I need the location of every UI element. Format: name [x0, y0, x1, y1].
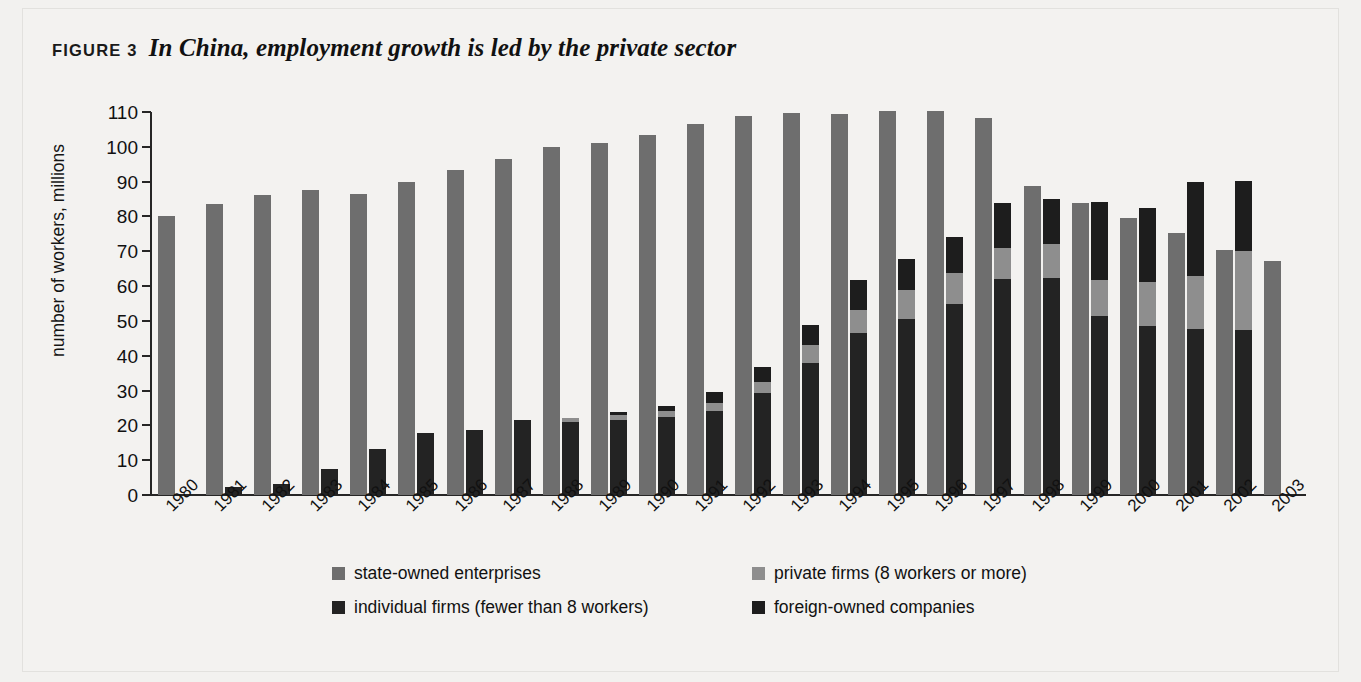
y-tick-label: 20: [92, 416, 138, 435]
bar-segment-state-owned: [1216, 250, 1233, 495]
bar-segment-state-owned: [831, 114, 848, 495]
bar-segment-individual-firms: [1139, 326, 1156, 495]
bar-segment-private-firms: [1043, 244, 1060, 277]
bar-segment-foreign-owned: [706, 392, 723, 403]
bar-segment-state-owned: [398, 182, 415, 495]
bar-segment-individual-firms: [802, 363, 819, 495]
bar-group: [1066, 112, 1114, 495]
bar-segment-private-firms: [802, 345, 819, 363]
legend-swatch-icon: [332, 567, 345, 580]
bar-group: [921, 112, 969, 495]
bars-layer: [152, 112, 1306, 495]
bar-segment-individual-firms: [1091, 316, 1108, 495]
bar-private-sector-stack: [994, 203, 1011, 495]
bar-state-owned: [447, 170, 464, 495]
bar-segment-private-firms: [994, 248, 1011, 280]
bar-state-owned: [687, 124, 704, 496]
bar-private-sector-stack: [1139, 208, 1156, 495]
bar-group: [681, 112, 729, 495]
y-tick-mark: [142, 111, 151, 113]
bar-segment-individual-firms: [1187, 329, 1204, 495]
bar-segment-state-owned: [735, 116, 752, 495]
bar-segment-foreign-owned: [1043, 199, 1060, 244]
bar-segment-state-owned: [158, 216, 175, 495]
bar-segment-state-owned: [687, 124, 704, 496]
legend-item[interactable]: foreign-owned companies: [752, 597, 1092, 618]
bar-segment-private-firms: [1091, 280, 1108, 317]
bar-segment-state-owned: [783, 113, 800, 495]
legend-swatch-icon: [332, 601, 345, 614]
bar-state-owned: [783, 113, 800, 495]
bar-state-owned: [1120, 218, 1137, 495]
y-tick-label: 50: [92, 311, 138, 330]
legend-item[interactable]: private firms (8 workers or more): [752, 563, 1092, 584]
legend-swatch-icon: [752, 601, 765, 614]
bar-segment-state-owned: [447, 170, 464, 495]
legend-label: individual firms (fewer than 8 workers): [354, 597, 649, 618]
bar-state-owned: [975, 118, 992, 495]
legend-swatch-icon: [752, 567, 765, 580]
bar-group: [344, 112, 392, 495]
bar-segment-state-owned: [254, 195, 271, 495]
y-tick-mark: [142, 459, 151, 461]
bar-segment-foreign-owned: [946, 237, 963, 274]
y-tick-mark: [142, 390, 151, 392]
bar-segment-foreign-owned: [898, 259, 915, 290]
y-tick-mark: [142, 494, 151, 496]
bar-segment-state-owned: [206, 204, 223, 495]
bar-group: [633, 112, 681, 495]
bar-private-sector-stack: [1043, 199, 1060, 495]
bar-private-sector-stack: [1091, 202, 1108, 495]
bar-segment-state-owned: [1024, 186, 1041, 495]
y-tick-mark: [142, 320, 151, 322]
bar-segment-state-owned: [350, 194, 367, 495]
bar-segment-state-owned: [302, 190, 319, 495]
bar-segment-foreign-owned: [1139, 208, 1156, 282]
y-tick-label: 0: [92, 486, 138, 505]
legend-item[interactable]: individual firms (fewer than 8 workers): [332, 597, 752, 618]
y-tick-label: 40: [92, 346, 138, 365]
y-tick-label: 110: [92, 103, 138, 122]
bar-segment-state-owned: [975, 118, 992, 495]
bar-segment-private-firms: [706, 403, 723, 411]
y-tick-mark: [142, 146, 151, 148]
bar-private-sector-stack: [1187, 182, 1204, 495]
bar-private-sector-stack: [850, 280, 867, 495]
y-tick-mark: [142, 250, 151, 252]
y-tick-label: 70: [92, 242, 138, 261]
bar-group: [969, 112, 1017, 495]
bar-private-sector-stack: [754, 367, 771, 495]
y-tick-mark: [142, 355, 151, 357]
legend-label: state-owned enterprises: [354, 563, 541, 584]
bar-state-owned: [398, 182, 415, 495]
bar-segment-state-owned: [927, 111, 944, 495]
bar-group: [537, 112, 585, 495]
bar-group: [441, 112, 489, 495]
bar-group: [729, 112, 777, 495]
bar-state-owned: [495, 159, 512, 495]
bar-group: [489, 112, 537, 495]
bar-segment-private-firms: [754, 382, 771, 392]
y-tick-label: 80: [92, 207, 138, 226]
chart-legend: state-owned enterprisesprivate firms (8 …: [332, 556, 1092, 624]
bar-segment-state-owned: [591, 143, 608, 495]
legend-item[interactable]: state-owned enterprises: [332, 563, 752, 584]
y-axis-tick-labels: 0102030405060708090100110: [92, 0, 138, 682]
bar-segment-state-owned: [543, 147, 560, 495]
y-tick-label: 100: [92, 137, 138, 156]
bar-group: [200, 112, 248, 495]
bar-group: [873, 112, 921, 495]
bar-segment-private-firms: [946, 273, 963, 304]
bar-group: [1018, 112, 1066, 495]
bar-group: [825, 112, 873, 495]
y-tick-label: 30: [92, 381, 138, 400]
bar-group: [1258, 112, 1306, 495]
bar-state-owned: [1216, 250, 1233, 495]
bar-private-sector-stack: [1235, 181, 1252, 495]
y-tick-mark: [142, 181, 151, 183]
bar-state-owned: [831, 114, 848, 495]
bar-state-owned: [1072, 203, 1089, 495]
bar-segment-foreign-owned: [850, 280, 867, 310]
bar-segment-foreign-owned: [1235, 181, 1252, 251]
y-axis-label: number of workers, millions: [48, 101, 69, 401]
